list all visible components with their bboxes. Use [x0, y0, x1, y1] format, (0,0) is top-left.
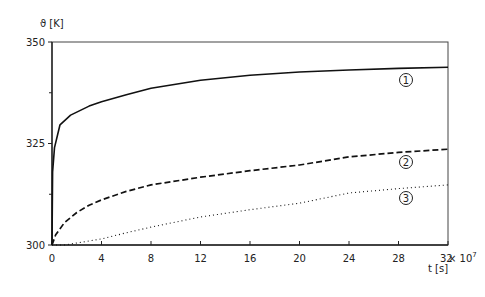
- svg-text:1: 1: [403, 75, 409, 86]
- y-axis-label: ϑ [K]: [40, 18, 64, 29]
- curve-labels: 123: [400, 74, 413, 205]
- y-tick-label: 350: [26, 37, 45, 48]
- y-tick-label: 325: [26, 138, 45, 149]
- x-tick-label: 28: [392, 253, 405, 264]
- curve-1: [52, 67, 448, 245]
- plot-frame: [52, 42, 448, 245]
- svg-text:3: 3: [403, 193, 409, 204]
- x-tick-label: 12: [194, 253, 207, 264]
- x-tick-label: 4: [98, 253, 104, 264]
- curve-label-2: 2: [400, 156, 413, 169]
- x-multiplier: × 107: [448, 251, 477, 264]
- curve-3: [52, 185, 448, 245]
- y-tick-label: 300: [26, 240, 45, 251]
- svg-text:2: 2: [403, 157, 409, 168]
- curves: [52, 67, 448, 245]
- x-axis-label: t [s]: [428, 263, 448, 274]
- x-tick-label: 20: [293, 253, 306, 264]
- y-axis-ticks: 300325350: [26, 37, 52, 251]
- curve-label-3: 3: [400, 192, 413, 205]
- x-tick-label: 24: [343, 253, 356, 264]
- x-tick-label: 0: [49, 253, 55, 264]
- x-tick-label: 16: [244, 253, 257, 264]
- curve-label-1: 1: [400, 74, 413, 87]
- x-tick-label: 8: [148, 253, 154, 264]
- curve-2: [52, 149, 448, 245]
- temperature-chart: 300325350 048121620242832 123 ϑ [K] t [s…: [0, 0, 485, 297]
